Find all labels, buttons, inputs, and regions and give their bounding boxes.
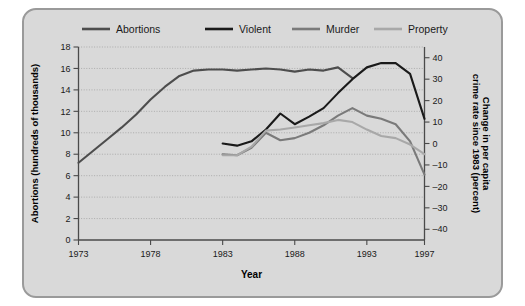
y2-tick-label: 10	[433, 117, 443, 127]
legend-label-property: Property	[408, 23, 448, 35]
y2-axis-title: Change in per capitacrime rate since 198…	[471, 74, 492, 213]
y-tick-label: 14	[60, 85, 70, 95]
y2-tick-label: –10	[433, 160, 448, 170]
y-tick-label: 16	[60, 64, 70, 74]
y-tick-label: 12	[60, 107, 70, 117]
x-tick-label: 1993	[357, 249, 377, 259]
y2-tick-label: –40	[433, 224, 448, 234]
tick-labels: 024681012141618–40–30–20–100102030401973…	[60, 42, 447, 259]
x-tick-label: 1973	[68, 249, 88, 259]
y-axis-title: Abortions (hundreds of thousands)	[29, 64, 40, 223]
x-tick-label: 1983	[213, 249, 233, 259]
y2-tick-label: –30	[433, 203, 448, 213]
y-tick-label: 6	[65, 171, 70, 181]
chart-legend: AbortionsViolentMurderProperty	[82, 23, 448, 35]
data-series	[79, 63, 425, 175]
chart-container: AbortionsViolentMurderProperty 024681012…	[0, 0, 525, 306]
legend-label-murder: Murder	[326, 23, 360, 35]
x-tick-label: 1988	[285, 249, 305, 259]
y-tick-label: 8	[65, 149, 70, 159]
y-tick-label: 10	[60, 128, 70, 138]
line-chart: AbortionsViolentMurderProperty 024681012…	[0, 0, 525, 306]
y-tick-label: 18	[60, 42, 70, 52]
x-tick-label: 1978	[141, 249, 161, 259]
axes	[79, 47, 425, 240]
x-axis-title: Year	[241, 269, 262, 280]
y2-tick-label: 20	[433, 96, 443, 106]
legend-label-violent: Violent	[239, 23, 271, 35]
y2-tick-label: 0	[433, 139, 438, 149]
y2-tick-label: –20	[433, 182, 448, 192]
y2-tick-label: 30	[433, 74, 443, 84]
y2-tick-label: 40	[433, 53, 443, 63]
y-tick-label: 0	[65, 235, 70, 245]
legend-label-abortions: Abortions	[116, 23, 160, 35]
series-line-violent	[223, 63, 425, 146]
y-tick-label: 2	[65, 214, 70, 224]
x-tick-label: 1997	[414, 249, 434, 259]
y-tick-label: 4	[65, 192, 70, 202]
